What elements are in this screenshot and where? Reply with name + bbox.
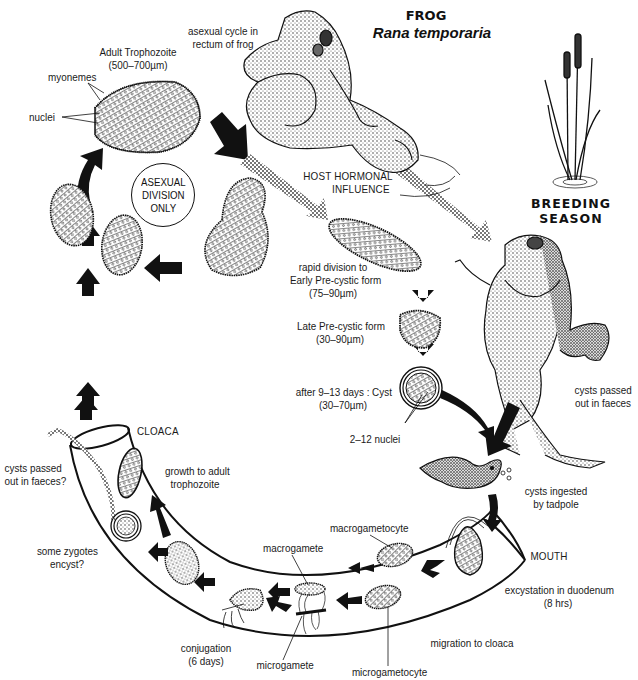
label-early-precystic: rapid division to Early Pre-cystic form … <box>290 261 376 300</box>
excysting-form <box>446 517 488 575</box>
tadpole-to-mouth-arrow <box>482 494 502 532</box>
label-cysts-passed-faeces: cysts passed out in faeces <box>575 384 632 410</box>
label-late-precystic: Late Pre-cystic form (30–90µm) <box>297 320 383 346</box>
frog-breeding <box>455 235 609 468</box>
ingested-cysts <box>501 468 511 480</box>
label-cyst-nuclei: 2–12 nuclei <box>345 433 405 446</box>
cyst <box>400 367 442 423</box>
label-some-zygotes: some zygotes encyst? <box>37 545 97 571</box>
label-growth-adult: growth to adult trophozoite <box>165 465 225 491</box>
label-nuclei: nuclei <box>29 111 55 124</box>
adult-trophozoite-cell <box>95 82 200 153</box>
cloaca-up-arrow <box>74 396 98 420</box>
label-myonemes: myonemes <box>48 71 96 84</box>
reeds <box>545 34 600 188</box>
label-conjugation: conjugation (6 days) <box>180 642 232 668</box>
label-macrogametocyte: macrogametocyte <box>330 522 402 535</box>
tadpole <box>420 457 501 488</box>
label-breeding-season: BREEDING SEASON <box>524 196 618 226</box>
title-common-name: FROG <box>386 8 466 23</box>
label-asexual-cycle: asexual cycle in rectum of frog <box>184 25 261 51</box>
label-cloaca: CLOACA <box>137 425 179 438</box>
label-host-hormonal: HOST HORMONAL INFLUENCE <box>303 170 392 196</box>
label-adult-trophozoite: Adult Trophozoite (500–700µm) <box>93 46 182 72</box>
label-excystation: excystation in duodenum (8 hrs) <box>505 584 612 610</box>
label-migration: migration to cloaca <box>429 637 515 650</box>
label-cysts-passed-faeces-q: cysts passed out in faeces? <box>5 462 62 488</box>
label-cysts-ingested: cysts ingested by tadpole <box>522 485 591 511</box>
asexual-division-badge: ASEXUAL DIVISION ONLY <box>131 163 195 227</box>
label-mouth: MOUTH <box>528 550 571 563</box>
label-cyst: after 9–13 days : Cyst (30–70µm) <box>296 386 391 412</box>
title-species: Rana temporaria <box>372 24 492 41</box>
label-macrogamete: macrogamete <box>263 542 323 555</box>
label-microgametocyte: microgametocyte <box>352 666 424 679</box>
label-microgamete: microgamete <box>257 659 314 672</box>
late-precystic-form <box>400 311 440 348</box>
